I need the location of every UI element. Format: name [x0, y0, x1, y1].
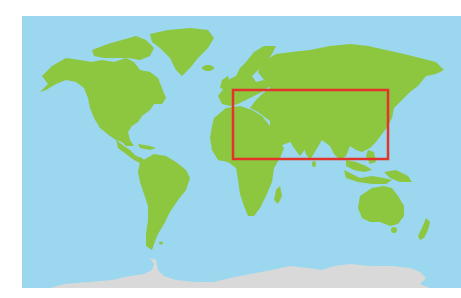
sri-lanka	[312, 161, 316, 167]
iceland	[202, 65, 214, 71]
world-map	[22, 16, 461, 288]
tasmania	[391, 227, 397, 233]
falkland-islands	[159, 242, 163, 245]
